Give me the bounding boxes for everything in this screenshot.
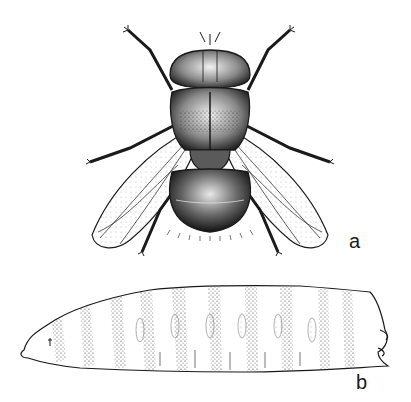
panel-label-b: b (356, 372, 367, 392)
front-leg-left (128, 30, 172, 90)
adult-fly-illustration (86, 25, 334, 256)
larva-body-outline (21, 285, 388, 372)
fly-abdomen (170, 169, 251, 232)
fly-head (170, 50, 250, 88)
front-leg-right (248, 30, 290, 90)
figure-canvas (0, 0, 411, 402)
panel-label-a: a (349, 231, 360, 251)
larva-illustration (21, 285, 388, 372)
